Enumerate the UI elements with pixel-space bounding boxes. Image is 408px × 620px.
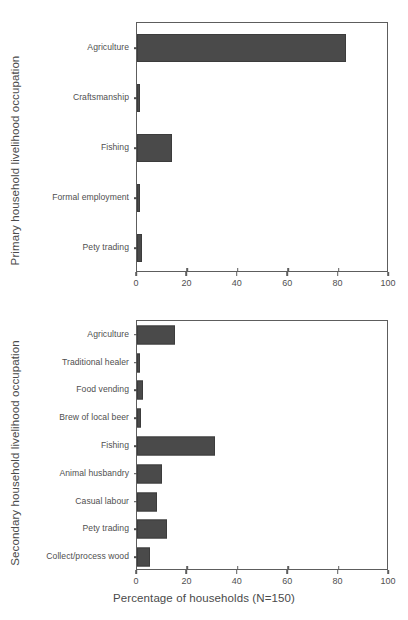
y-axis-title-primary: Primary household livelihood occupation xyxy=(4,33,26,288)
x-axis-tick xyxy=(186,570,188,574)
category-labels-secondary: AgricultureTraditional healerFood vendin… xyxy=(24,320,129,570)
y-axis-tick xyxy=(134,390,137,392)
y-axis-tick-label: Fishing xyxy=(24,440,129,450)
x-axis-tick xyxy=(236,272,238,276)
plot-area-secondary xyxy=(136,320,388,570)
x-axis-tick xyxy=(387,570,389,574)
x-axis-tick xyxy=(186,272,188,276)
x-axis-tick-label: 60 xyxy=(282,576,292,586)
plot-area-primary xyxy=(136,22,388,272)
y-axis-tick-label: Collect/process wood xyxy=(24,551,129,561)
y-axis-tick-label: Brew of local beer xyxy=(24,412,129,422)
x-axis-tick-label: 40 xyxy=(232,576,242,586)
x-axis-tick-label: 0 xyxy=(133,278,138,288)
y-axis-tick-label: Agriculture xyxy=(24,329,129,339)
x-axis-tick-label: 100 xyxy=(380,278,395,288)
x-axis-tick-label: 80 xyxy=(333,278,343,288)
x-axis-inner-tick xyxy=(287,268,289,272)
y-axis-tick xyxy=(134,197,137,199)
y-axis-tick xyxy=(134,362,137,364)
x-axis-tick xyxy=(286,570,288,574)
y-axis-tick-label: Fishing xyxy=(24,142,129,152)
x-axis-inner-tick xyxy=(187,566,189,570)
x-axis-primary: 020406080100 xyxy=(136,272,388,298)
y-axis-title-secondary: Secondary household livelihood occupatio… xyxy=(4,322,26,584)
x-axis-tick-label: 40 xyxy=(232,278,242,288)
bar xyxy=(137,464,162,483)
y-axis-tick xyxy=(134,417,137,419)
bar xyxy=(137,492,157,511)
y-axis-tick xyxy=(134,556,137,558)
y-axis-tick xyxy=(134,334,137,336)
bar-series-secondary xyxy=(137,321,387,569)
y-axis-tick xyxy=(134,501,137,503)
bar xyxy=(137,325,175,344)
x-axis-tick-label: 20 xyxy=(181,278,191,288)
x-axis-label: Percentage of households (N=150) xyxy=(0,592,408,604)
y-axis-tick-label: Animal husbandry xyxy=(24,468,129,478)
x-axis-tick-label: 80 xyxy=(333,576,343,586)
x-axis-inner-tick xyxy=(237,268,239,272)
y-axis-tick-label: Casual labour xyxy=(24,496,129,506)
x-axis-tick xyxy=(387,272,389,276)
x-axis-tick-label: 0 xyxy=(133,576,138,586)
x-axis-tick xyxy=(286,272,288,276)
y-axis-tick xyxy=(134,445,137,447)
y-axis-tick-label: Formal employment xyxy=(24,192,129,202)
y-axis-tick-label: Pety trading xyxy=(24,523,129,533)
x-axis-tick-label: 100 xyxy=(380,576,395,586)
y-axis-tick-label: Agriculture xyxy=(24,42,129,52)
bar-series-primary xyxy=(137,23,387,271)
y-axis-tick xyxy=(134,47,137,49)
y-axis-tick-label: Food vending xyxy=(24,384,129,394)
figure-root: Primary household livelihood occupation … xyxy=(0,0,408,620)
bar xyxy=(137,184,140,212)
x-axis-tick xyxy=(135,570,137,574)
bar xyxy=(137,84,140,112)
y-axis-tick-label: Pety trading xyxy=(24,242,129,252)
x-axis-inner-tick xyxy=(338,566,340,570)
bar xyxy=(137,437,215,456)
x-axis-inner-tick xyxy=(338,268,340,272)
bar xyxy=(137,353,140,372)
y-axis-tick-label: Traditional healer xyxy=(24,357,129,367)
x-axis-tick xyxy=(337,570,339,574)
bar xyxy=(137,381,143,400)
bar xyxy=(137,520,167,539)
bar xyxy=(137,548,150,567)
x-axis-tick-label: 20 xyxy=(181,576,191,586)
chart-panel-secondary: Secondary household livelihood occupatio… xyxy=(0,300,408,620)
y-axis-tick xyxy=(134,247,137,249)
y-axis-tick xyxy=(134,147,137,149)
category-labels-primary: AgricultureCraftsmanshipFishingFormal em… xyxy=(24,22,129,272)
y-axis-tick xyxy=(134,97,137,99)
y-axis-tick xyxy=(134,529,137,531)
x-axis-inner-tick xyxy=(187,268,189,272)
y-axis-tick xyxy=(134,473,137,475)
bar xyxy=(137,134,172,162)
y-axis-tick-label: Craftsmanship xyxy=(24,92,129,102)
bar xyxy=(137,34,346,62)
x-axis-inner-tick xyxy=(237,566,239,570)
chart-panel-primary: Primary household livelihood occupation … xyxy=(0,0,408,300)
x-axis-tick xyxy=(337,272,339,276)
x-axis-tick xyxy=(236,570,238,574)
x-axis-tick xyxy=(135,272,137,276)
x-axis-tick-label: 60 xyxy=(282,278,292,288)
bar xyxy=(137,234,142,262)
bar xyxy=(137,409,141,428)
x-axis-inner-tick xyxy=(287,566,289,570)
